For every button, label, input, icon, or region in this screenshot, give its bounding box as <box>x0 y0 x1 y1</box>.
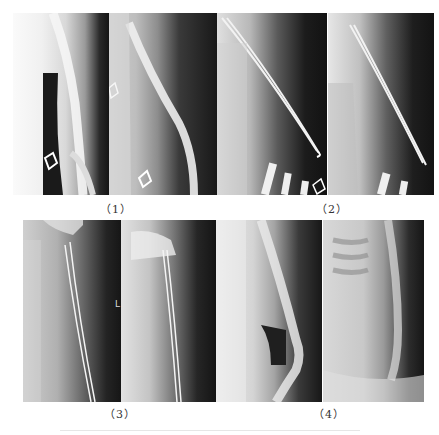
xray-3b <box>121 220 216 402</box>
panel-label-3: （3） <box>104 405 136 421</box>
xray-4b <box>323 220 424 402</box>
xray-1b <box>109 13 217 195</box>
xray-2b <box>328 13 434 195</box>
xray-1a <box>13 13 109 195</box>
scan-artifact-line <box>60 430 360 431</box>
side-marker-l: L <box>115 299 120 309</box>
panel-label-1: （1） <box>100 200 132 216</box>
xray-4a <box>216 220 322 402</box>
xray-2a <box>217 13 327 195</box>
xray-3a <box>23 220 121 402</box>
panel-label-2: （2） <box>316 200 348 216</box>
panel-label-4: （4） <box>313 405 345 421</box>
